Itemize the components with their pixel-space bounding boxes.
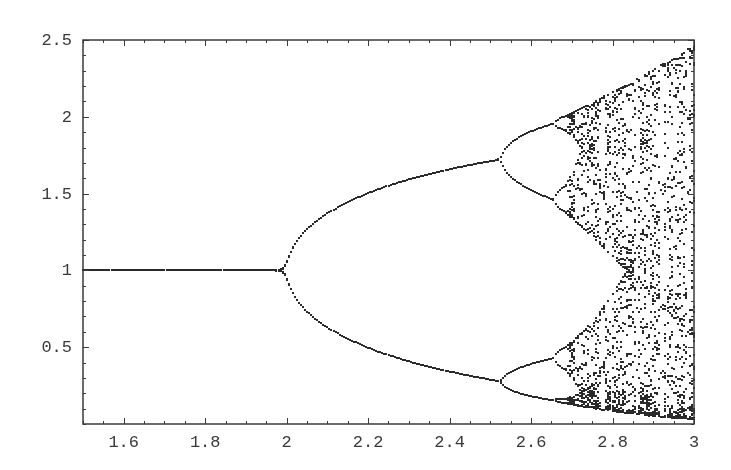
y-tick-label: 1.5 [41,185,72,202]
x-tick-label: 1.8 [190,434,221,451]
x-tick-label: 2.8 [597,434,628,451]
x-tick-label: 2 [282,434,292,451]
x-tick-label: 3 [689,434,699,451]
y-tick-label: 2.5 [41,32,72,49]
x-tick-label: 2.4 [434,434,465,451]
y-tick-label: 2 [62,108,72,125]
x-tick-label: 1.6 [108,434,139,451]
y-tick-label: 0.5 [41,339,72,356]
y-tick-label: 1 [62,262,72,279]
bifurcation-chart: 1.6 1.8 2 2.2 2.4 2.6 2.8 3 0.5 1 1.5 2 … [0,0,731,470]
x-tick-label: 2.6 [516,434,547,451]
x-tick-label: 2.2 [353,434,384,451]
plot-area [0,0,731,470]
